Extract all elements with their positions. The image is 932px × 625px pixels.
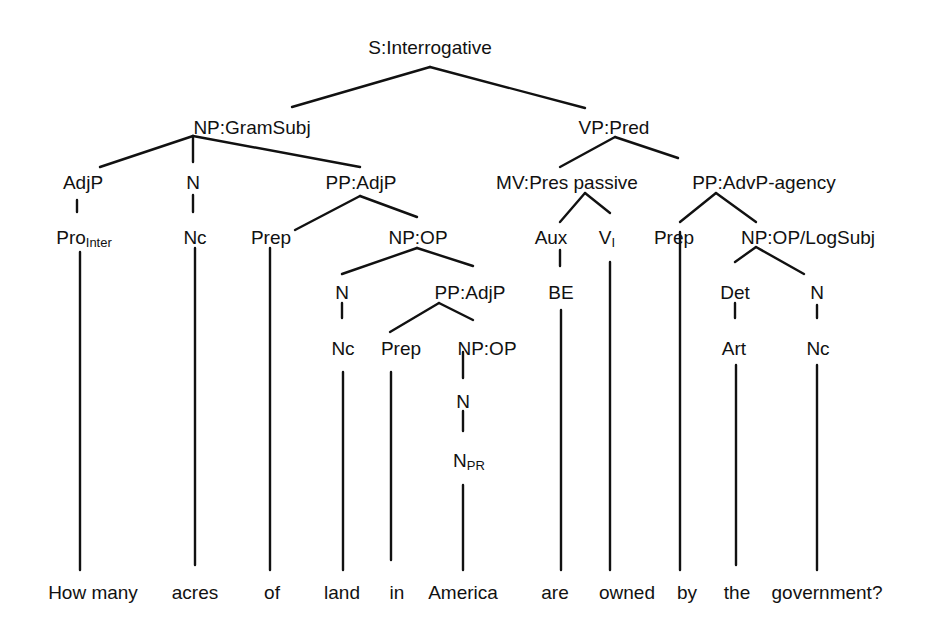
node-aux: Aux <box>535 228 568 247</box>
node-pp-advp-agency: PP:AdvP-agency <box>692 173 836 192</box>
node-n-land: N <box>335 283 349 302</box>
word-how-many: How many <box>48 583 138 602</box>
v-label: V <box>599 227 612 248</box>
pro-label: Pro <box>56 227 86 248</box>
node-nc-gov: Nc <box>806 339 829 358</box>
word-in: in <box>390 583 405 602</box>
node-s-interrogative: S:Interrogative <box>368 38 492 57</box>
v-subscript: I <box>612 235 616 250</box>
node-np-gramsubj: NP:GramSubj <box>193 118 310 137</box>
node-np-op-2: NP:OP <box>457 339 516 358</box>
node-vp-pred: VP:Pred <box>579 118 650 137</box>
word-the: the <box>724 583 750 602</box>
tree-edges <box>0 0 932 625</box>
word-are: are <box>541 583 568 602</box>
word-acres: acres <box>172 583 218 602</box>
node-nc: Nc <box>183 228 206 247</box>
node-art: Art <box>722 339 746 358</box>
node-n-america: N <box>456 392 470 411</box>
node-pro-inter: ProInter <box>56 228 112 249</box>
word-america: America <box>428 583 498 602</box>
word-of: of <box>264 583 280 602</box>
node-mv-pres-passive: MV:Pres passive <box>496 173 638 192</box>
node-adjp: AdjP <box>63 173 103 192</box>
word-land: land <box>324 583 360 602</box>
node-n: N <box>186 173 200 192</box>
pro-subscript: Inter <box>86 235 112 250</box>
node-np-op-logsubj: NP:OP/LogSubj <box>741 228 875 247</box>
node-det: Det <box>720 283 750 302</box>
node-pp-adjp-2: PP:AdjP <box>435 283 506 302</box>
node-v-i: VI <box>599 228 615 249</box>
node-prep-agency: Prep <box>654 228 694 247</box>
word-government: government? <box>772 583 883 602</box>
node-np-op: NP:OP <box>388 228 447 247</box>
node-n-pr: NPR <box>453 451 485 472</box>
npr-subscript: PR <box>467 458 485 473</box>
word-by: by <box>677 583 697 602</box>
word-owned: owned <box>599 583 655 602</box>
node-be: BE <box>548 283 573 302</box>
node-pp-adjp: PP:AdjP <box>326 173 397 192</box>
node-nc-land: Nc <box>331 339 354 358</box>
node-prep: Prep <box>251 228 291 247</box>
node-prep-in: Prep <box>381 339 421 358</box>
node-n-gov: N <box>810 283 824 302</box>
npr-label: N <box>453 450 467 471</box>
